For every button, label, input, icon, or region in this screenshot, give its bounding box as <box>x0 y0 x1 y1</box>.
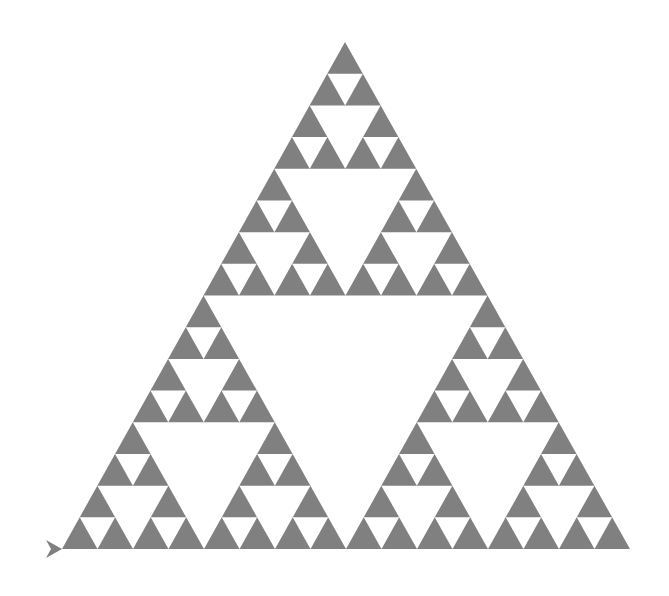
turtle-cursor-icon <box>46 540 62 558</box>
sierpinski-canvas <box>0 0 669 596</box>
